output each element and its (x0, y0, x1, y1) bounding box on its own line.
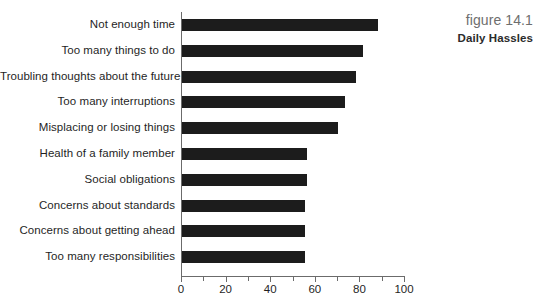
bar-row (181, 218, 404, 244)
axis-tick-label: 0 (178, 283, 184, 295)
axis-tick-minor (248, 276, 249, 281)
axis-tick-major (270, 276, 271, 282)
axis-tick-label: 80 (353, 283, 366, 295)
axis-tick-major (315, 276, 316, 282)
bar (182, 19, 378, 31)
category-label: Concerns about standards (0, 193, 175, 219)
bar-row (181, 141, 404, 167)
axis-tick-label: 20 (219, 283, 232, 295)
axis-tick-label: 40 (264, 283, 277, 295)
bar (182, 71, 356, 83)
bar-row (181, 193, 404, 219)
bar (182, 96, 345, 108)
category-label-column: Not enough timeToo many things to doTrou… (0, 12, 175, 277)
axis-tick-label: 60 (308, 283, 321, 295)
bar (182, 148, 307, 160)
bar-row (181, 115, 404, 141)
bar-row (181, 89, 404, 115)
axis-tick-major (404, 276, 405, 282)
axis-tick-minor (337, 276, 338, 281)
axis-tick-major (226, 276, 227, 282)
category-label: Too many things to do (0, 38, 175, 64)
axis-tick-minor (203, 276, 204, 281)
category-label: Troubling thoughts about the future (0, 64, 175, 90)
bar (182, 251, 305, 263)
bar (182, 200, 305, 212)
category-label: Health of a family member (0, 141, 175, 167)
bar-row (181, 12, 404, 38)
axis-tick-major (181, 276, 182, 282)
axis-tick-minor (293, 276, 294, 281)
category-label: Too many interruptions (0, 89, 175, 115)
bar-row (181, 244, 404, 270)
plot-area (181, 12, 404, 277)
daily-hassles-bar-chart: Not enough timeToo many things to doTrou… (0, 0, 541, 303)
bar (182, 174, 307, 186)
category-label: Social obligations (0, 167, 175, 193)
bar (182, 225, 305, 237)
category-label: Not enough time (0, 12, 175, 38)
axis-tick-minor (382, 276, 383, 281)
bar-row (181, 64, 404, 90)
category-label: Too many responsibilities (0, 244, 175, 270)
category-label: Misplacing or losing things (0, 115, 175, 141)
axis-tick-major (359, 276, 360, 282)
bar (182, 45, 363, 57)
axis-tick-label: 100 (394, 283, 413, 295)
bar (182, 122, 338, 134)
category-label: Concerns about getting ahead (0, 218, 175, 244)
bar-row (181, 167, 404, 193)
bar-row (181, 38, 404, 64)
